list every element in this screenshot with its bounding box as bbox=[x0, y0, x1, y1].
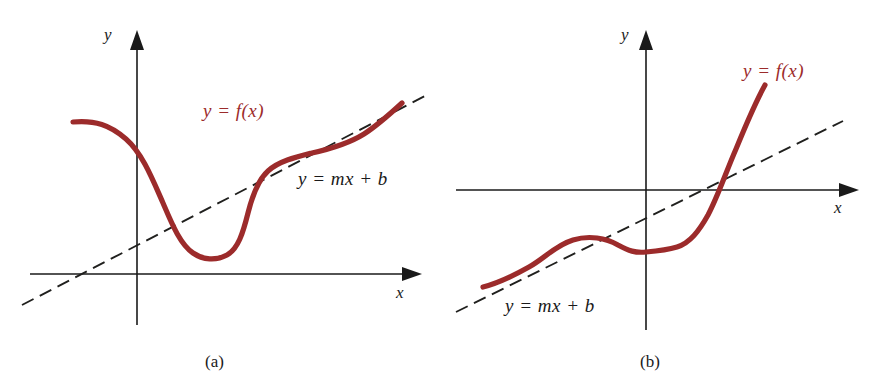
x-axis-arrowhead-icon bbox=[839, 183, 859, 197]
panel-caption-a: (a) bbox=[205, 352, 224, 372]
y-axis-label-b: y bbox=[621, 26, 629, 43]
asymptote-label-b: y = mx + b bbox=[505, 296, 595, 315]
x-axis-a bbox=[30, 267, 422, 281]
y-axis-b bbox=[639, 30, 653, 330]
y-axis-arrowhead-icon bbox=[639, 30, 653, 50]
panel-b: y x y = f(x) y = mx + b (b) bbox=[443, 0, 885, 377]
x-axis-b bbox=[456, 183, 859, 197]
figure-container: y x y = f(x) y = mx + b (a) y x y = f(x) bbox=[0, 0, 885, 377]
panel-caption-b: (b) bbox=[640, 352, 660, 372]
x-axis-label-a: x bbox=[396, 284, 404, 301]
y-axis-a bbox=[130, 30, 144, 325]
x-axis-arrowhead-icon bbox=[402, 267, 422, 281]
x-axis-label-b: x bbox=[834, 199, 842, 216]
asymptote-label-a: y = mx + b bbox=[298, 169, 388, 188]
y-axis-arrowhead-icon bbox=[130, 30, 144, 50]
curve-label-a: y = f(x) bbox=[203, 101, 264, 120]
function-curve-b bbox=[483, 85, 765, 287]
panel-b-plot bbox=[443, 0, 885, 377]
y-axis-label-a: y bbox=[104, 26, 112, 43]
panel-a: y x y = f(x) y = mx + b (a) bbox=[0, 0, 443, 377]
asymptote-line-b bbox=[456, 121, 843, 312]
curve-label-b: y = f(x) bbox=[743, 61, 804, 80]
